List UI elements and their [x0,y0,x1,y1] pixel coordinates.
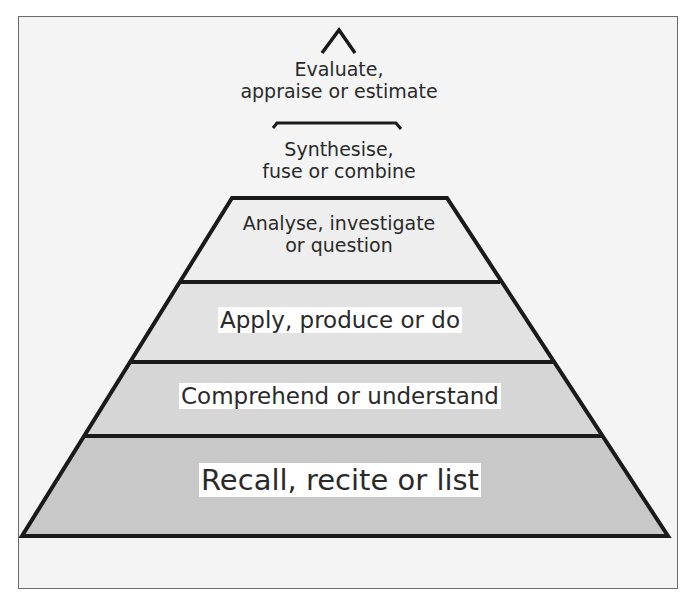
level-synthesise-line2: fuse or combine [239,160,439,182]
level-comprehend: Comprehend or understand [120,383,560,410]
level-evaluate-line1: Evaluate, [239,58,439,80]
level-recall-label: Recall, recite or list [199,463,481,497]
level-analyse: Analyse, investigate or question [214,212,464,257]
apex-caret [322,30,355,53]
level-analyse-line2: or question [214,234,464,256]
level-analyse-line1: Analyse, investigate [214,212,464,234]
level-apply-label: Apply, produce or do [218,307,462,333]
synthesise-top-bracket [273,123,401,129]
pyramid-diagram: Evaluate, appraise or estimate Synthesis… [0,0,689,599]
level-evaluate: Evaluate, appraise or estimate [239,58,439,103]
level-evaluate-line2: appraise or estimate [239,80,439,102]
level-synthesise-line1: Synthesise, [239,138,439,160]
level-comprehend-label: Comprehend or understand [179,383,501,409]
level-synthesise: Synthesise, fuse or combine [239,138,439,183]
level-apply: Apply, produce or do [140,307,540,334]
level-recall: Recall, recite or list [140,463,540,497]
